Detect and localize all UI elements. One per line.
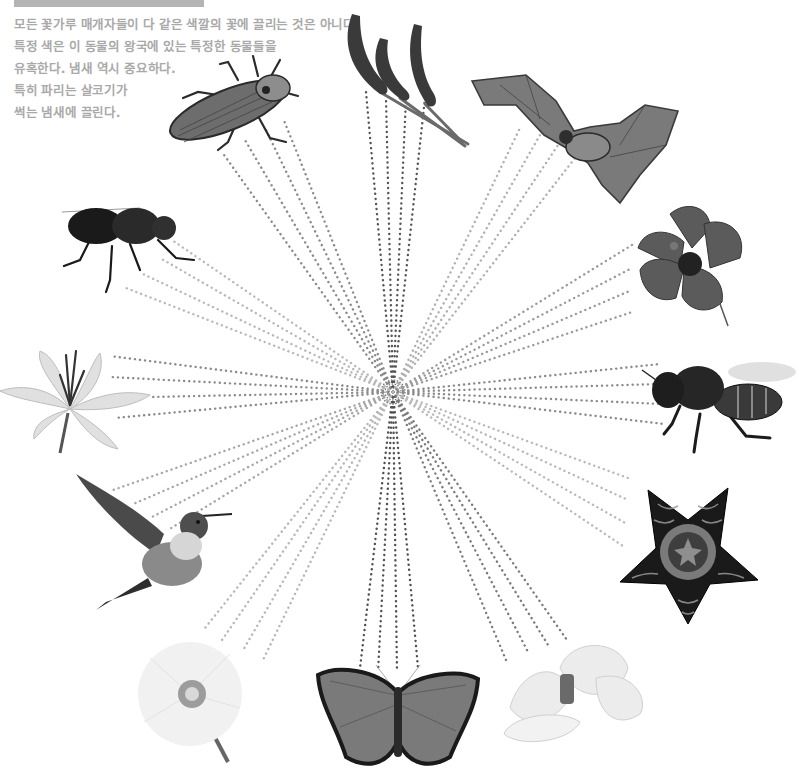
grass-flower-icon: [340, 10, 475, 150]
ray-to-bee: [393, 392, 664, 424]
ray-to-beetle: [265, 128, 393, 392]
magnolia-icon: [500, 638, 650, 748]
ray-to-butterfly: [378, 392, 393, 672]
ray-to-bee: [393, 392, 662, 404]
ray-to-beetle: [245, 140, 393, 392]
ray-to-fly: [126, 288, 393, 392]
ray-to-magnolia: [393, 392, 528, 652]
bat-icon: [470, 75, 680, 210]
ray-to-poppy: [222, 392, 393, 640]
beetle-icon: [158, 50, 308, 160]
hummingbird-icon: [76, 474, 236, 619]
hibiscus-icon: [630, 198, 750, 328]
ray-to-magnolia: [393, 392, 567, 640]
ray-to-stapelia: [393, 392, 628, 500]
ray-to-hibiscus: [393, 290, 632, 392]
ray-to-magnolia: [393, 392, 548, 645]
stapelia-flower-icon: [618, 484, 758, 629]
ray-to-stapelia: [393, 392, 627, 524]
ray-to-butterfly: [393, 392, 397, 672]
ray-to-poppy: [242, 392, 393, 652]
ray-to-stapelia: [393, 392, 628, 478]
ray-to-lily: [110, 377, 393, 392]
ray-to-magnolia: [393, 392, 506, 660]
butterfly-icon: [316, 665, 481, 775]
ray-to-lily: [110, 356, 393, 392]
ray-to-beetle: [222, 152, 393, 392]
bee-icon: [642, 352, 792, 457]
lily-icon: [0, 345, 150, 455]
white-poppy-icon: [130, 638, 250, 768]
ray-to-hibiscus: [393, 312, 632, 392]
ray-to-lily: [115, 392, 393, 418]
fly-icon: [50, 200, 200, 295]
